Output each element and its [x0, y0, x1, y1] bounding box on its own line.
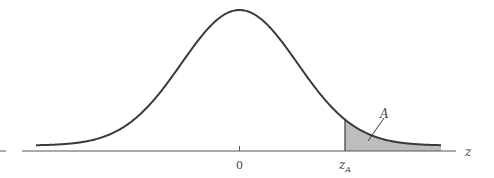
z-axis-label: z	[464, 145, 472, 159]
normal-curve-chart: A z 0 zA	[0, 0, 494, 178]
zero-tick-label: 0	[236, 159, 243, 172]
za-tick-label: zA	[338, 158, 351, 174]
density-curve	[36, 10, 441, 145]
area-label: A	[379, 107, 389, 121]
shaded-tail-area	[345, 120, 441, 151]
